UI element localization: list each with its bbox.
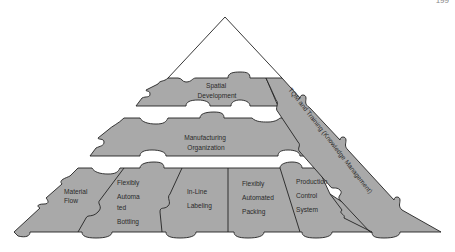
layer-spatial-development — [136, 72, 278, 106]
pyramid-outline — [168, 17, 282, 78]
puzzle-pyramid-diagram: Spatial Development Manufacturing Organi… — [0, 0, 455, 252]
